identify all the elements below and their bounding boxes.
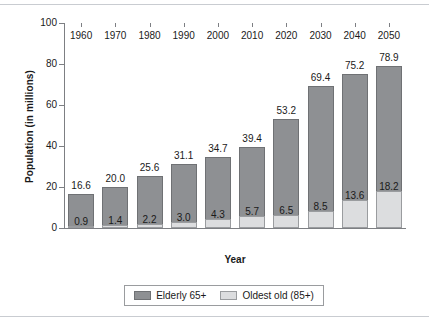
x-axis-line bbox=[64, 228, 406, 229]
legend-item[interactable]: Elderly 65+ bbox=[134, 290, 206, 301]
y-axis-title: Population (in millions) bbox=[24, 37, 35, 217]
x-tick-mark bbox=[252, 23, 253, 27]
bar-total-value-label: 25.6 bbox=[140, 162, 159, 173]
bar-total-value-label: 69.4 bbox=[311, 72, 330, 83]
chart-legend: Elderly 65+Oldest old (85+) bbox=[124, 285, 324, 306]
bar-group[interactable]: 31.13.0 bbox=[171, 164, 197, 228]
top-divider-rule bbox=[0, 4, 429, 5]
bar-oldest-old-value-label: 1.4 bbox=[108, 215, 122, 226]
y-tick-mark bbox=[59, 146, 64, 147]
figure-canvas: Population (in millions) 020406080100 19… bbox=[0, 0, 429, 324]
x-tick-mark bbox=[286, 23, 287, 27]
bar-total-value-label: 34.7 bbox=[208, 143, 227, 154]
bar-oldest-old-value-label: 4.3 bbox=[211, 209, 225, 220]
x-tick-mark bbox=[389, 23, 390, 27]
legend-item[interactable]: Oldest old (85+) bbox=[220, 290, 313, 301]
x-tick-mark bbox=[218, 23, 219, 27]
y-tick-mark bbox=[59, 64, 64, 65]
bar-group[interactable]: 75.213.6 bbox=[342, 74, 368, 228]
bar-segment-oldest-old-85plus[interactable] bbox=[239, 216, 265, 228]
legend-swatch-icon bbox=[220, 291, 237, 300]
y-tick-label: 20 bbox=[46, 181, 57, 192]
y-tick-mark bbox=[59, 187, 64, 188]
bar-oldest-old-value-label: 6.5 bbox=[279, 205, 293, 216]
bar-group[interactable]: 20.01.4 bbox=[102, 187, 128, 228]
x-tick-mark bbox=[115, 23, 116, 27]
bar-total-value-label: 20.0 bbox=[106, 173, 125, 184]
bar-total-value-label: 53.2 bbox=[277, 105, 296, 116]
plot-area: 020406080100 196019701980199020002010202… bbox=[64, 23, 406, 228]
legend-swatch-icon bbox=[134, 291, 151, 300]
bar-oldest-old-value-label: 5.7 bbox=[245, 206, 259, 217]
bar-total-value-label: 31.1 bbox=[174, 150, 193, 161]
bar-segment-oldest-old-85plus[interactable] bbox=[342, 200, 368, 228]
bar-total-value-label: 78.9 bbox=[379, 52, 398, 63]
x-tick-mark bbox=[150, 23, 151, 27]
bar-total-value-label: 75.2 bbox=[345, 60, 364, 71]
x-tick-label: 2050 bbox=[366, 30, 412, 41]
bar-segment-oldest-old-85plus[interactable] bbox=[273, 215, 299, 228]
bar-oldest-old-value-label: 3.0 bbox=[177, 212, 191, 223]
bar-group[interactable]: 53.26.5 bbox=[273, 119, 299, 228]
bar-segment-oldest-old-85plus[interactable] bbox=[376, 191, 402, 228]
bar-oldest-old-value-label: 18.2 bbox=[379, 181, 398, 192]
bar-group[interactable]: 34.74.3 bbox=[205, 157, 231, 228]
y-tick-mark bbox=[59, 228, 64, 229]
bottom-divider-rule bbox=[0, 316, 429, 317]
bar-oldest-old-value-label: 2.2 bbox=[143, 214, 157, 225]
legend-item-label: Oldest old (85+) bbox=[242, 290, 313, 301]
bar-total-value-label: 16.6 bbox=[71, 180, 90, 191]
y-tick-label: 40 bbox=[46, 140, 57, 151]
bar-group[interactable]: 16.60.9 bbox=[68, 194, 94, 228]
bar-oldest-old-value-label: 13.6 bbox=[345, 190, 364, 201]
legend-item-label: Elderly 65+ bbox=[156, 290, 206, 301]
bar-group[interactable]: 25.62.2 bbox=[137, 176, 163, 228]
bar-group[interactable]: 69.48.5 bbox=[308, 86, 334, 228]
y-tick-label: 60 bbox=[46, 99, 57, 110]
x-tick-mark bbox=[355, 23, 356, 27]
y-tick-mark bbox=[59, 23, 64, 24]
bar-group[interactable]: 78.918.2 bbox=[376, 66, 402, 228]
x-axis-title: Year bbox=[64, 254, 406, 265]
bar-segment-oldest-old-85plus[interactable] bbox=[308, 211, 334, 228]
bar-group[interactable]: 39.45.7 bbox=[239, 147, 265, 228]
bar-total-value-label: 39.4 bbox=[242, 133, 261, 144]
y-tick-label: 80 bbox=[46, 58, 57, 69]
y-tick-label: 100 bbox=[40, 17, 57, 28]
bar-oldest-old-value-label: 0.9 bbox=[74, 216, 88, 227]
x-tick-mark bbox=[184, 23, 185, 27]
x-tick-mark bbox=[81, 23, 82, 27]
y-tick-mark bbox=[59, 105, 64, 106]
x-tick-mark bbox=[321, 23, 322, 27]
bar-segment-oldest-old-85plus[interactable] bbox=[205, 219, 231, 228]
stacked-bar-chart: Population (in millions) 020406080100 19… bbox=[0, 8, 429, 314]
bar-oldest-old-value-label: 8.5 bbox=[314, 201, 328, 212]
y-tick-label: 0 bbox=[51, 222, 57, 233]
